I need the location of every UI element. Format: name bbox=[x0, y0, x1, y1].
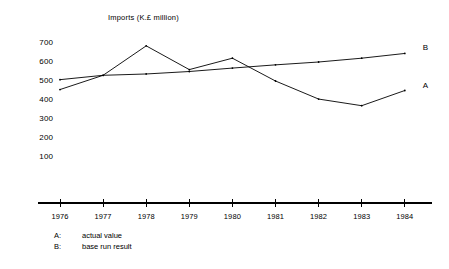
legend-item: A: actual value bbox=[54, 231, 132, 242]
data-point bbox=[59, 79, 61, 81]
data-point bbox=[232, 57, 234, 59]
legend-label: base run result bbox=[82, 242, 132, 253]
data-point bbox=[102, 74, 104, 76]
series-end-label-b: B bbox=[423, 43, 428, 52]
data-point bbox=[145, 45, 147, 47]
series-end-label-a: A bbox=[423, 81, 428, 90]
legend-item: B: base run result bbox=[54, 242, 132, 253]
series-lines bbox=[59, 45, 406, 107]
data-point bbox=[188, 69, 190, 71]
data-point bbox=[232, 67, 234, 69]
data-point bbox=[318, 61, 320, 63]
legend: A: actual value B: base run result bbox=[54, 231, 132, 252]
data-point bbox=[361, 57, 363, 59]
legend-key: A: bbox=[54, 231, 82, 242]
data-point bbox=[318, 98, 320, 100]
data-point bbox=[188, 71, 190, 73]
data-point bbox=[145, 73, 147, 75]
data-point bbox=[404, 90, 406, 92]
plot-area bbox=[0, 0, 449, 269]
data-point bbox=[404, 53, 406, 55]
legend-key: B: bbox=[54, 242, 82, 253]
imports-line-chart: Imports (K.£ million) 100200300400500600… bbox=[0, 0, 449, 269]
data-point bbox=[275, 80, 277, 82]
data-point bbox=[59, 89, 61, 91]
data-point bbox=[361, 105, 363, 107]
series-line-a bbox=[60, 46, 405, 106]
x-axis bbox=[38, 199, 432, 207]
data-point bbox=[275, 64, 277, 66]
legend-label: actual value bbox=[82, 231, 132, 242]
